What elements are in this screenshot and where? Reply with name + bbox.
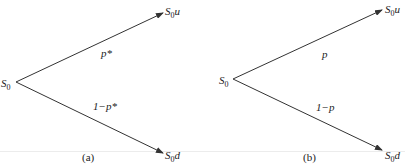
down-prob-a: 1−p* bbox=[93, 101, 117, 112]
down-node-b: S0d bbox=[385, 150, 400, 164]
root-node-a: S0 bbox=[1, 78, 11, 92]
tree-edges bbox=[0, 0, 405, 168]
edge-a-up bbox=[16, 13, 163, 82]
up-node-a: S0u bbox=[165, 6, 180, 20]
down-node-a: S0d bbox=[165, 150, 180, 164]
up-prob-b: p bbox=[322, 49, 328, 60]
down-prob-b: 1−p bbox=[316, 102, 334, 113]
caption-a: (a) bbox=[82, 152, 94, 163]
up-prob-a: p* bbox=[101, 48, 112, 59]
edge-b-down bbox=[233, 79, 382, 150]
edge-a-down bbox=[16, 82, 163, 153]
up-node-b: S0u bbox=[385, 4, 400, 18]
edge-b-up bbox=[233, 10, 382, 79]
root-node-b: S0 bbox=[219, 75, 229, 89]
caption-b: (b) bbox=[303, 152, 316, 163]
